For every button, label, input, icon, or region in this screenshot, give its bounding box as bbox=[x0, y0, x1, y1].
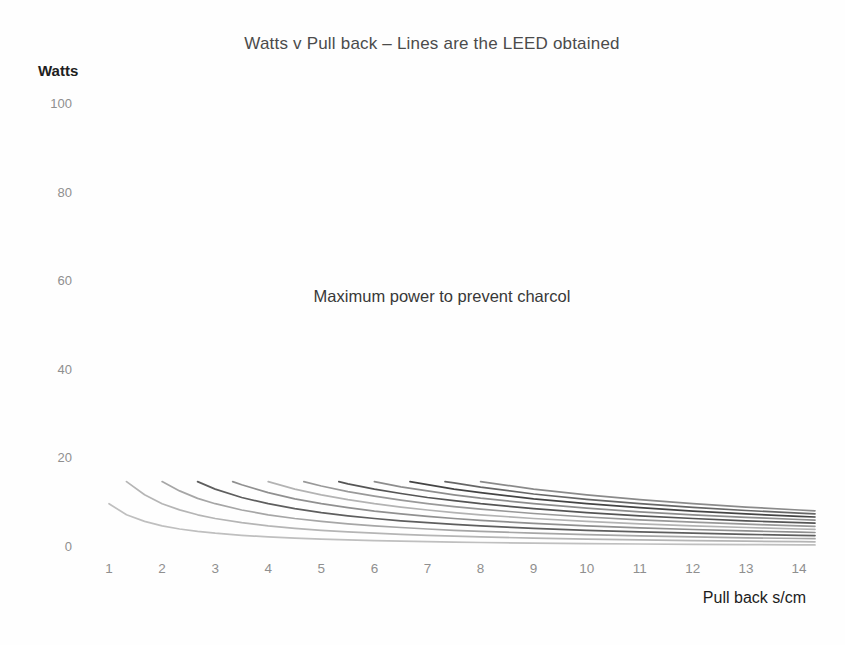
x-tick-label-1: 1 bbox=[94, 561, 124, 576]
chart-canvas: Watts v Pull back – Lines are the LEED o… bbox=[0, 0, 845, 645]
x-tick-label-3: 3 bbox=[200, 561, 230, 576]
x-tick-label-13: 13 bbox=[731, 561, 761, 576]
x-tick-label-4: 4 bbox=[253, 561, 283, 576]
leed-line-line-12 bbox=[481, 482, 815, 511]
x-tick-label-9: 9 bbox=[519, 561, 549, 576]
leed-line-line-11 bbox=[445, 482, 815, 514]
x-tick-label-14: 14 bbox=[784, 561, 814, 576]
x-tick-label-11: 11 bbox=[625, 561, 655, 576]
x-tick-label-6: 6 bbox=[359, 561, 389, 576]
max-power-annotation: Maximum power to prevent charcol bbox=[314, 287, 571, 306]
x-tick-label-7: 7 bbox=[412, 561, 442, 576]
x-axis-title: Pull back s/cm bbox=[600, 589, 806, 607]
x-tick-label-12: 12 bbox=[678, 561, 708, 576]
x-tick-label-5: 5 bbox=[306, 561, 336, 576]
plot-lines bbox=[0, 0, 845, 645]
x-tick-label-2: 2 bbox=[147, 561, 177, 576]
x-tick-label-8: 8 bbox=[466, 561, 496, 576]
x-tick-label-10: 10 bbox=[572, 561, 602, 576]
